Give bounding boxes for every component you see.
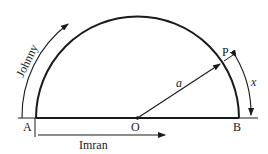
label-arc-x: x xyxy=(250,75,257,89)
label-a: A xyxy=(23,120,32,134)
label-radius-a: a xyxy=(176,76,182,90)
semicircle-arc xyxy=(36,16,239,118)
label-p: P xyxy=(222,45,229,59)
radius-line xyxy=(138,64,221,118)
semicircle-diagram: A O B P a x Imran Johnny xyxy=(0,0,268,154)
label-o: O xyxy=(131,120,140,134)
label-imran: Imran xyxy=(79,138,108,152)
label-b: B xyxy=(233,120,241,134)
